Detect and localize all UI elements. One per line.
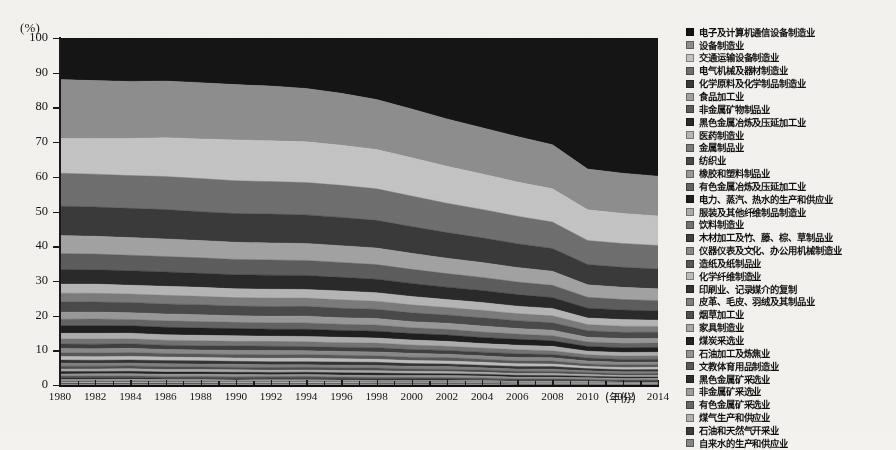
x-tick-mark [306,380,307,386]
y-tick-label: 30 [14,274,48,287]
x-tick-mark-minor [394,381,395,385]
y-tick-label: 50 [14,205,48,218]
legend-item[interactable]: 有色金属冶炼及压延加工业 [686,180,892,193]
x-tick-label: 2008 [541,390,563,402]
x-tick-mark [166,380,167,386]
legend-item[interactable]: 木材加工及竹、藤、棕、草制品业 [686,232,892,245]
legend-item[interactable]: 食品加工业 [686,90,892,103]
y-tick-label: 70 [14,135,48,148]
legend-item[interactable]: 金属制品业 [686,142,892,155]
x-tick-label: 1992 [260,390,282,402]
legend-swatch-icon [686,427,694,435]
legend-swatch-icon [686,195,694,203]
legend-item[interactable]: 皮革、毛皮、羽绒及其制品业 [686,296,892,309]
legend-swatch-icon [686,67,694,75]
x-tick-mark-minor [78,381,79,385]
legend-item[interactable]: 设备制造业 [686,39,892,52]
legend-item[interactable]: 家具制造业 [686,321,892,334]
legend-item[interactable]: 橡胶和塑料制品业 [686,167,892,180]
x-tick-mark [271,380,272,386]
y-tick-label: 100 [14,31,48,44]
legend-item[interactable]: 非金属矿采选业 [686,386,892,399]
legend-item[interactable]: 自来水的生产和供应业 [686,437,892,450]
legend-item-label: 皮革、毛皮、羽绒及其制品业 [699,297,815,306]
legend-item[interactable]: 石油加工及炼焦业 [686,347,892,360]
x-tick-mark-minor [570,381,571,385]
x-axis-line [59,385,659,387]
x-tick-mark [377,380,378,386]
legend-item[interactable]: 电子及计算机通信设备制造业 [686,26,892,39]
legend-item[interactable]: 石油和天然气开采业 [686,424,892,437]
legend-item-label: 电力、蒸汽、热水的生产和供应业 [699,195,833,204]
y-tick-mark [53,281,60,282]
legend-swatch-icon [686,41,694,49]
x-tick-mark-minor [324,381,325,385]
legend-item-label: 烟草加工业 [699,310,744,319]
legend-item[interactable]: 烟草加工业 [686,309,892,322]
legend-item[interactable]: 煤气生产和供应业 [686,411,892,424]
legend-swatch-icon [686,337,694,345]
legend-swatch-icon [686,144,694,152]
legend-item-label: 黑色金属冶炼及压延加工业 [699,118,806,127]
area-series-canvas [60,38,658,385]
y-tick-label: 20 [14,309,48,322]
legend-item-label: 化学原料及化学制品制造业 [699,79,806,88]
legend-item[interactable]: 煤炭采选业 [686,334,892,347]
legend-item[interactable]: 纺织业 [686,154,892,167]
x-tick-mark-minor [640,381,641,385]
legend-item[interactable]: 黑色金属冶炼及压延加工业 [686,116,892,129]
legend-item-label: 化学纤维制造业 [699,272,761,281]
legend-swatch-icon [686,298,694,306]
legend-swatch-icon [686,183,694,191]
legend-item[interactable]: 黑色金属矿采选业 [686,373,892,386]
x-tick-label: 1986 [154,390,176,402]
legend-item-label: 文教体育用品制造业 [699,362,779,371]
x-tick-mark [552,380,553,386]
legend-item[interactable]: 印刷业、记录媒介的复制 [686,283,892,296]
legend-item-label: 金属制品业 [699,143,744,152]
legend-item[interactable]: 饮料制造业 [686,219,892,232]
y-tick-mark [53,316,60,317]
x-tick-label: 1996 [330,390,352,402]
legend-item-label: 煤气生产和供应业 [699,413,770,422]
x-tick-mark [412,380,413,386]
legend-item-label: 医药制造业 [699,131,744,140]
x-tick-label: 1990 [225,390,247,402]
y-tick-mark [53,107,60,108]
x-tick-mark-minor [148,381,149,385]
legend-item[interactable]: 服装及其他纤维制品制造业 [686,206,892,219]
legend-item[interactable]: 电力、蒸汽、热水的生产和供应业 [686,193,892,206]
legend-item-label: 黑色金属矿采选业 [699,375,770,384]
legend-item[interactable]: 文教体育用品制造业 [686,360,892,373]
legend-swatch-icon [686,350,694,358]
legend-item[interactable]: 有色金属矿采选业 [686,398,892,411]
x-tick-label: 1994 [295,390,317,402]
chart-legend: 电子及计算机通信设备制造业设备制造业交通运输设备制造业电气机械及器材制造业化学原… [686,26,892,450]
legend-item[interactable]: 造纸及纸制品业 [686,257,892,270]
legend-item[interactable]: 医药制造业 [686,129,892,142]
y-tick-label: 0 [14,378,48,391]
legend-item-label: 造纸及纸制品业 [699,259,761,268]
legend-item[interactable]: 电气机械及器材制造业 [686,65,892,78]
x-tick-mark [623,380,624,386]
legend-swatch-icon [686,221,694,229]
legend-swatch-icon [686,234,694,242]
legend-swatch-icon [686,80,694,88]
x-tick-mark-minor [218,381,219,385]
x-tick-mark [201,380,202,386]
legend-item[interactable]: 仪器仪表及文化、办公用机械制造业 [686,244,892,257]
legend-swatch-icon [686,324,694,332]
x-tick-mark [482,380,483,386]
legend-item[interactable]: 化学纤维制造业 [686,270,892,283]
legend-item[interactable]: 交通运输设备制造业 [686,52,892,65]
legend-item-label: 电气机械及器材制造业 [699,66,788,75]
legend-swatch-icon [686,170,694,178]
y-tick-label: 90 [14,66,48,79]
legend-item[interactable]: 化学原料及化学制品制造业 [686,77,892,90]
plot-area [60,38,658,385]
x-tick-mark-minor [289,381,290,385]
legend-item-label: 电子及计算机通信设备制造业 [699,28,815,37]
legend-item-label: 设备制造业 [699,41,744,50]
legend-item-label: 仪器仪表及文化、办公用机械制造业 [699,246,841,255]
legend-item[interactable]: 非金属矿物制品业 [686,103,892,116]
